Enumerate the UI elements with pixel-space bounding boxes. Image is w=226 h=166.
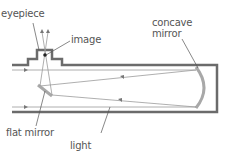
label-eyepiece: eyepiece: [1, 8, 45, 19]
arrow-icon: [24, 105, 28, 109]
arrow-up-icon: [46, 29, 50, 33]
arrow-icon: [118, 98, 122, 102]
label-concave-line2: mirror: [152, 28, 181, 39]
reflected-ray-top: [40, 70, 196, 86]
leader-concave-mirror: [182, 39, 198, 68]
flat-mirror: [38, 85, 52, 96]
leader-image: [46, 41, 70, 55]
eyepiece-ray-left: [40, 32, 48, 86]
telescope-diagram: eyepiece image concave mirror flat mirro…: [0, 0, 226, 166]
arrow-icon: [120, 75, 124, 79]
reflected-ray-bottom: [52, 95, 196, 107]
arrow-up-icon: [40, 29, 44, 33]
label-light: light: [70, 140, 91, 151]
tube-top-wall: [12, 50, 217, 112]
label-concave-line1: concave: [152, 17, 192, 28]
leader-flat-mirror: [36, 91, 45, 126]
concave-mirror: [196, 67, 204, 108]
label-image: image: [71, 34, 101, 45]
leader-eyepiece: [33, 23, 39, 50]
arrow-icon: [24, 68, 28, 72]
label-flat-mirror: flat mirror: [6, 127, 54, 138]
